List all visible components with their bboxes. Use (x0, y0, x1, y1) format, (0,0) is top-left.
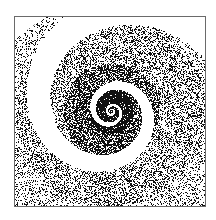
spiral-artwork-frame (14, 16, 206, 207)
stippled-spiral-image (15, 17, 205, 206)
